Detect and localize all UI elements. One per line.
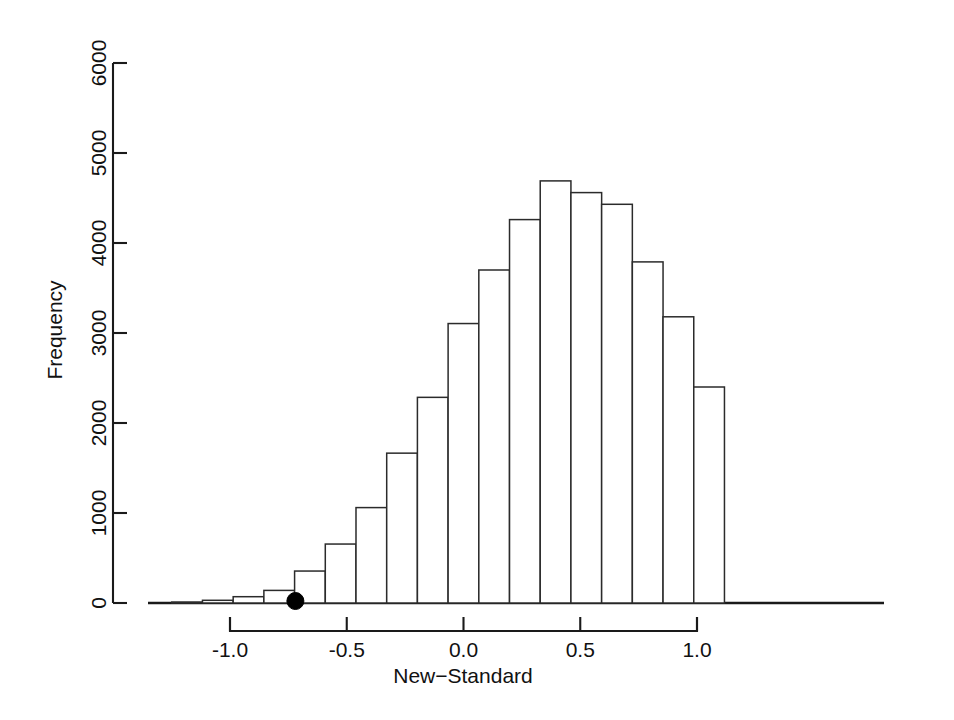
y-tick-label-3000: 3000 bbox=[87, 310, 110, 357]
plot-canvas: 0100020003000400050006000 -1.0-0.50.00.5… bbox=[0, 0, 954, 720]
x-axis-ticks bbox=[230, 617, 697, 631]
y-axis-ticks bbox=[113, 63, 127, 603]
histogram-bars bbox=[172, 181, 725, 603]
x-tick-label-0.5: 0.5 bbox=[566, 638, 595, 661]
histogram-bar bbox=[356, 508, 387, 603]
y-tick-label-5000: 5000 bbox=[87, 130, 110, 177]
x-tick-label-0.0: 0.0 bbox=[449, 638, 478, 661]
y-tick-label-6000: 6000 bbox=[87, 40, 110, 87]
histogram-bar bbox=[663, 317, 694, 603]
histogram-bar bbox=[448, 324, 479, 603]
histogram-bar bbox=[417, 397, 448, 603]
histogram-figure: 0100020003000400050006000 -1.0-0.50.00.5… bbox=[0, 0, 954, 720]
histogram-bar bbox=[694, 387, 725, 603]
x-axis-title: New−Standard bbox=[393, 664, 533, 687]
observed-statistic-marker bbox=[287, 593, 304, 610]
histogram-bar bbox=[540, 181, 571, 603]
histogram-bar bbox=[172, 602, 203, 603]
histogram-bar bbox=[632, 262, 663, 603]
histogram-bar bbox=[602, 204, 633, 603]
histogram-bar bbox=[233, 597, 264, 603]
y-tick-label-4000: 4000 bbox=[87, 220, 110, 267]
x-tick-label-1.0: 1.0 bbox=[682, 638, 711, 661]
histogram-bar bbox=[571, 193, 602, 603]
y-axis-title: Frequency bbox=[43, 280, 66, 380]
histogram-bar bbox=[325, 544, 356, 603]
y-axis-tick-labels: 0100020003000400050006000 bbox=[87, 40, 110, 609]
y-tick-label-0: 0 bbox=[87, 597, 110, 609]
histogram-bar bbox=[387, 453, 418, 603]
x-tick-label--1.0: -1.0 bbox=[212, 638, 248, 661]
y-tick-label-1000: 1000 bbox=[87, 490, 110, 537]
histogram-bar bbox=[510, 220, 541, 603]
histogram-bar bbox=[202, 600, 233, 603]
x-tick-label--0.5: -0.5 bbox=[329, 638, 365, 661]
histogram-bar bbox=[479, 270, 510, 603]
x-axis-tick-labels: -1.0-0.50.00.51.0 bbox=[212, 638, 712, 661]
y-tick-label-2000: 2000 bbox=[87, 400, 110, 447]
observed-statistic-marker bbox=[287, 593, 304, 610]
